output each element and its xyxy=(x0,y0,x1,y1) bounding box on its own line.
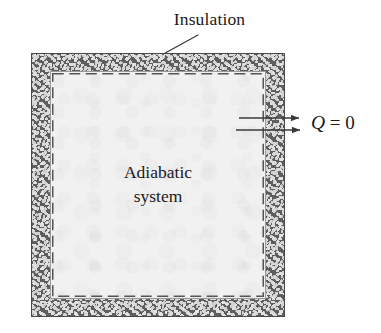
adiabatic-system-label: Adiabatic system xyxy=(50,160,266,208)
insulation-label: Insulation xyxy=(0,9,381,30)
q-value: 0 xyxy=(345,112,355,133)
adiabatic-system-figure: Insulation Adiabatic system xyxy=(0,0,381,333)
system-label-line-2: system xyxy=(50,184,266,208)
system-label-line-1: Adiabatic xyxy=(50,160,266,184)
q-symbol: Q xyxy=(311,112,325,133)
q-equals-sign: = xyxy=(325,112,345,133)
heat-transfer-annotation: Q = 0 xyxy=(311,112,355,134)
